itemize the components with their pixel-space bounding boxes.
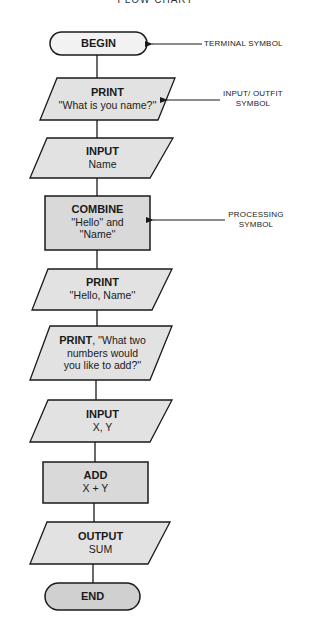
annotation-processing-label-2: SYMBOL bbox=[222, 220, 290, 230]
flowchart: FLOW CHART bbox=[0, 0, 311, 628]
node-print-hello-keyword: PRINT bbox=[35, 276, 170, 289]
node-print-name-keyword: PRINT bbox=[40, 86, 175, 99]
node-input-xy-text: X, Y bbox=[35, 421, 170, 434]
node-print-hello: PRINT ''Hello, Name'' bbox=[35, 276, 170, 301]
annotation-terminal-label: TERMINAL SYMBOL bbox=[204, 39, 283, 48]
node-add-text: X + Y bbox=[43, 482, 148, 495]
node-print-numbers-prompt: PRINT, ''What two numbers would you like… bbox=[35, 334, 170, 372]
annotation-io-label-1: INPUT/ OUTFIT bbox=[215, 89, 291, 99]
node-combine-keyword: COMBINE bbox=[45, 203, 150, 216]
node-begin: BEGIN bbox=[50, 37, 147, 50]
node-add-keyword: ADD bbox=[43, 469, 148, 482]
node-output-keyword: OUTPUT bbox=[33, 530, 168, 543]
node-output-sum: OUTPUT SUM bbox=[33, 530, 168, 555]
node-print-hello-text: ''Hello, Name'' bbox=[35, 289, 170, 302]
node-add: ADD X + Y bbox=[43, 469, 148, 494]
node-combine-text-2: ''Name'' bbox=[45, 228, 150, 241]
node-end-label: END bbox=[81, 590, 104, 602]
annotation-io-symbol: INPUT/ OUTFIT SYMBOL bbox=[215, 89, 291, 109]
annotation-processing-label-1: PROCESSING bbox=[222, 210, 290, 220]
node-print-numbers-text-1: , ''What two bbox=[92, 334, 146, 346]
node-begin-label: BEGIN bbox=[81, 37, 116, 49]
node-input-name: INPUT Name bbox=[35, 145, 170, 170]
node-input-name-text: Name bbox=[35, 158, 170, 171]
connector-lines bbox=[93, 55, 97, 583]
node-print-numbers-text-3: you like to add?'' bbox=[35, 359, 170, 372]
node-output-text: SUM bbox=[33, 543, 168, 556]
annotation-terminal-symbol: TERMINAL SYMBOL bbox=[204, 39, 283, 49]
node-end: END bbox=[45, 590, 140, 603]
node-input-xy: INPUT X, Y bbox=[35, 408, 170, 433]
node-input-name-keyword: INPUT bbox=[35, 145, 170, 158]
node-print-numbers-keyword: PRINT bbox=[59, 334, 92, 346]
annotation-processing-symbol: PROCESSING SYMBOL bbox=[222, 210, 290, 230]
node-combine: COMBINE ''Hello'' and ''Name'' bbox=[45, 203, 150, 241]
node-print-numbers-text-2: numbers would bbox=[35, 347, 170, 360]
annotation-io-label-2: SYMBOL bbox=[215, 99, 291, 109]
node-print-name-text: ''What is you name?'' bbox=[40, 99, 175, 112]
node-print-name-prompt: PRINT ''What is you name?'' bbox=[40, 86, 175, 111]
node-combine-text-1: ''Hello'' and bbox=[45, 216, 150, 229]
node-input-xy-keyword: INPUT bbox=[35, 408, 170, 421]
